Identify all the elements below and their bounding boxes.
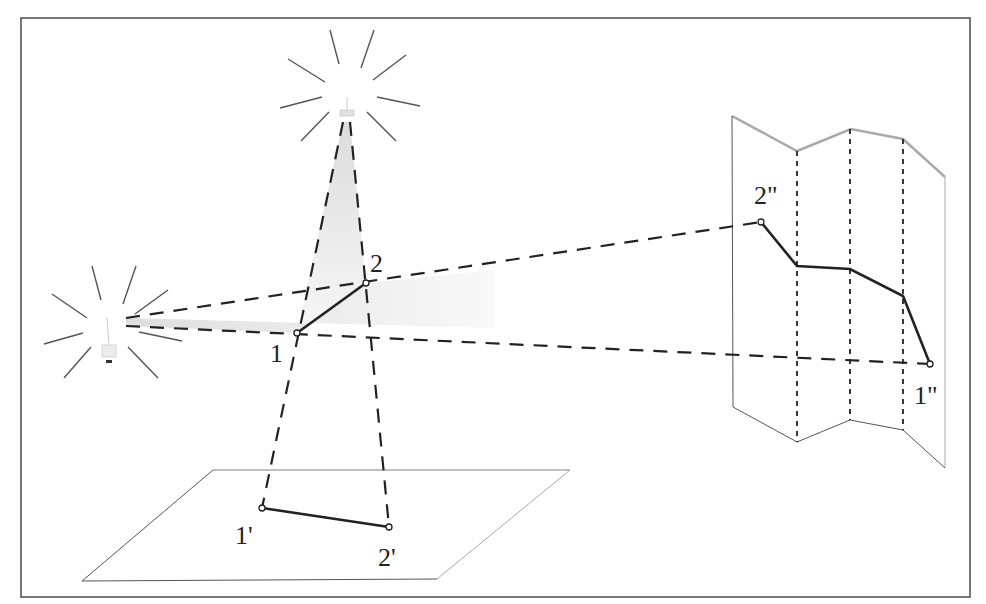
segment-1pp-2pp [761,222,930,364]
ground-plane [82,470,570,581]
label-2: 2 [370,249,383,278]
label-1: 1 [270,339,283,368]
label-2-prime: 2' [378,543,396,572]
label-2-double-prime: 2" [754,181,778,210]
projection-diagram: 1 2 1' 2' 1" 2" [0,0,986,604]
label-1-prime: 1' [235,521,253,550]
label-1-double-prime: 1" [914,381,938,410]
frame [21,18,970,597]
segment-1p-2p [262,508,389,527]
folded-screen [732,116,945,468]
